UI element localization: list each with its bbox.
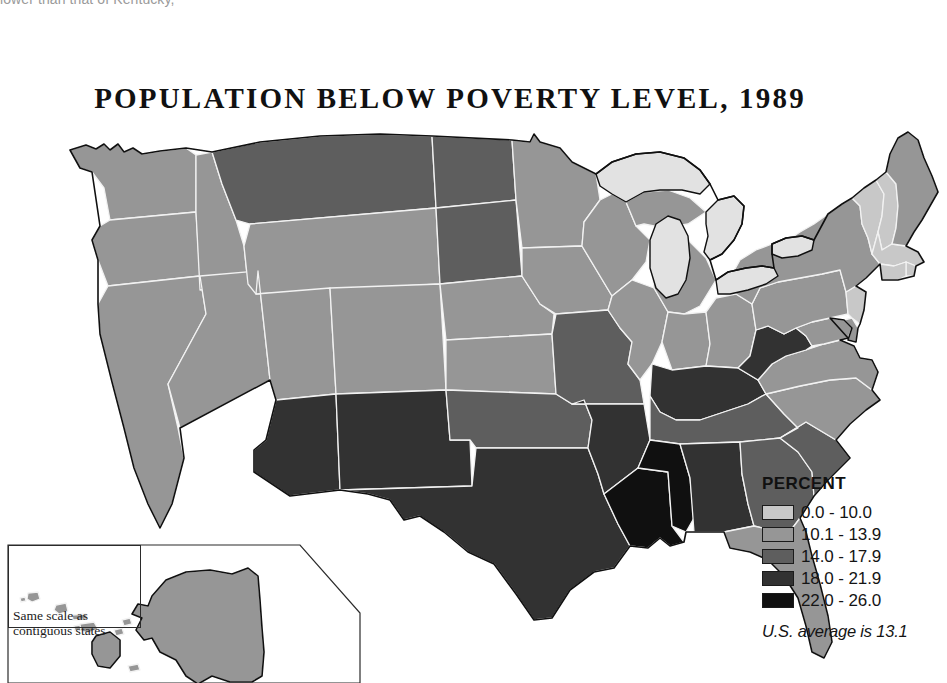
state-ND[interactable] (432, 136, 516, 208)
legend-row[interactable]: 10.1 - 13.9 (762, 524, 947, 545)
map-page: lower than that of Kentucky, POPULATION … (0, 0, 947, 683)
legend-label-1: 10.1 - 13.9 (801, 525, 881, 545)
state-WA[interactable] (70, 144, 196, 220)
inset-scale-note: Same scale as contiguous states (13, 609, 141, 638)
legend-label-2: 14.0 - 17.9 (801, 547, 881, 567)
legend-swatch-1 (762, 527, 794, 542)
legend-average-note: U.S. average is 13.1 (762, 622, 947, 641)
legend-swatch-2 (762, 549, 794, 564)
map-legend: PERCENT 0.0 - 10.010.1 - 13.914.0 - 17.9… (762, 474, 947, 641)
legend-title: PERCENT (762, 474, 947, 494)
legend-label-3: 18.0 - 21.9 (801, 569, 881, 589)
state-IN[interactable] (662, 312, 710, 370)
legend-label-0: 0.0 - 10.0 (801, 503, 872, 523)
legend-entries: 0.0 - 10.010.1 - 13.914.0 - 17.918.0 - 2… (762, 502, 947, 611)
state-SD[interactable] (436, 200, 522, 284)
legend-swatch-3 (762, 571, 794, 586)
lake-huron-shape (704, 196, 744, 260)
legend-swatch-4 (762, 593, 794, 608)
state-KS[interactable] (446, 334, 556, 394)
aleutian-island-3 (128, 664, 140, 672)
legend-row[interactable]: 0.0 - 10.0 (762, 502, 947, 523)
legend-row[interactable]: 22.0 - 26.0 (762, 590, 947, 611)
cropped-body-text: lower than that of Kentucky, (0, 0, 420, 7)
state-AK[interactable] (132, 568, 264, 683)
legend-row[interactable]: 18.0 - 21.9 (762, 568, 947, 589)
state-OR[interactable] (92, 212, 200, 286)
inset-note-line-2: contiguous states (13, 624, 141, 639)
page-title: POPULATION BELOW POVERTY LEVEL, 1989 (0, 82, 900, 115)
legend-row[interactable]: 14.0 - 17.9 (762, 546, 947, 567)
legend-label-4: 22.0 - 26.0 (801, 591, 881, 611)
legend-swatch-0 (762, 505, 794, 520)
inset-note-line-1: Same scale as (13, 609, 141, 624)
state-CO[interactable] (330, 284, 446, 394)
